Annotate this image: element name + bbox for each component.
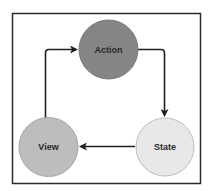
node-state-label: State [154, 142, 176, 152]
node-action-label: Action [95, 45, 123, 55]
node-action: Action [79, 20, 138, 79]
node-view-label: View [38, 142, 59, 152]
node-state: State [136, 118, 194, 176]
flux-cycle-diagram: Action State View [0, 0, 209, 191]
node-view: View [19, 118, 78, 177]
